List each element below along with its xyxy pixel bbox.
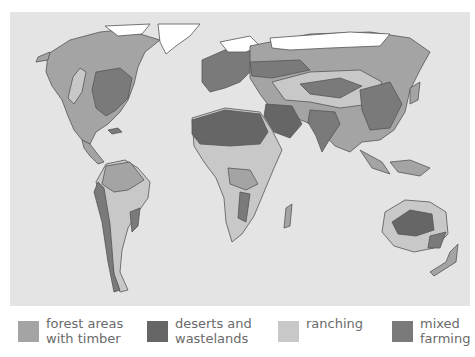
legend-swatch-forest (18, 321, 39, 342)
map-legend: forest areas with timber deserts and was… (0, 306, 475, 357)
legend-label-mixed: mixed farming (420, 316, 475, 346)
europe (202, 46, 255, 92)
world-map-graphic (10, 12, 470, 306)
legend-swatch-mixed (392, 321, 413, 342)
world-map (10, 12, 470, 306)
central-america (82, 140, 104, 164)
legend-swatch-desert (147, 321, 168, 342)
greenland (158, 24, 200, 54)
legend-label-desert: deserts and wastelands (175, 316, 265, 346)
legend-label-forest: forest areas with timber (46, 316, 136, 346)
new-zealand (430, 244, 458, 276)
legend-swatch-ranching (278, 321, 299, 342)
legend-label-ranching: ranching (306, 316, 396, 331)
madagascar (284, 204, 292, 228)
